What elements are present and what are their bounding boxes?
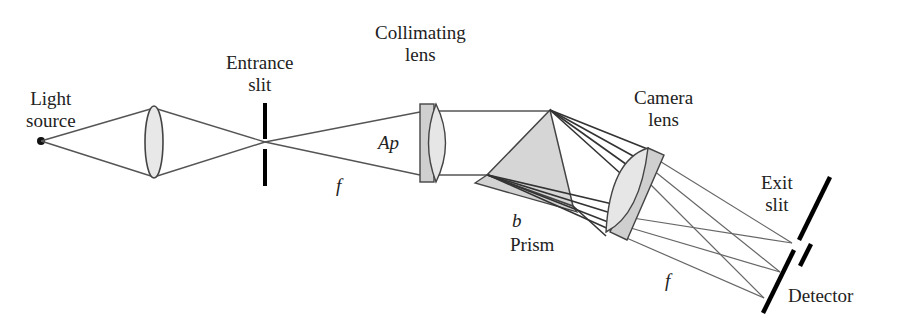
camera-lens (606, 148, 664, 240)
label-focal-length-camera: f (665, 270, 670, 292)
label-aperture: Ap (378, 132, 399, 154)
label-prism-base: b (512, 210, 522, 232)
exit-slit (799, 177, 830, 266)
prism (475, 110, 577, 212)
label-exit-slit: Exit slit (761, 172, 793, 216)
label-focal-length-collimator: f (336, 175, 341, 197)
label-detector: Detector (788, 285, 853, 307)
collimating-lens (420, 104, 446, 182)
label-entrance-slit: Entrance slit (226, 52, 294, 96)
label-prism: Prism (510, 234, 554, 256)
label-collimating-lens: Collimating lens (375, 22, 466, 66)
condenser-lens (145, 106, 163, 178)
spectrometer-diagram: Light source Entrance slit Collimating l… (0, 0, 901, 330)
label-camera-lens: Camera lens (634, 87, 693, 131)
input-rays (41, 108, 550, 177)
label-light-source: Light source (26, 88, 76, 132)
